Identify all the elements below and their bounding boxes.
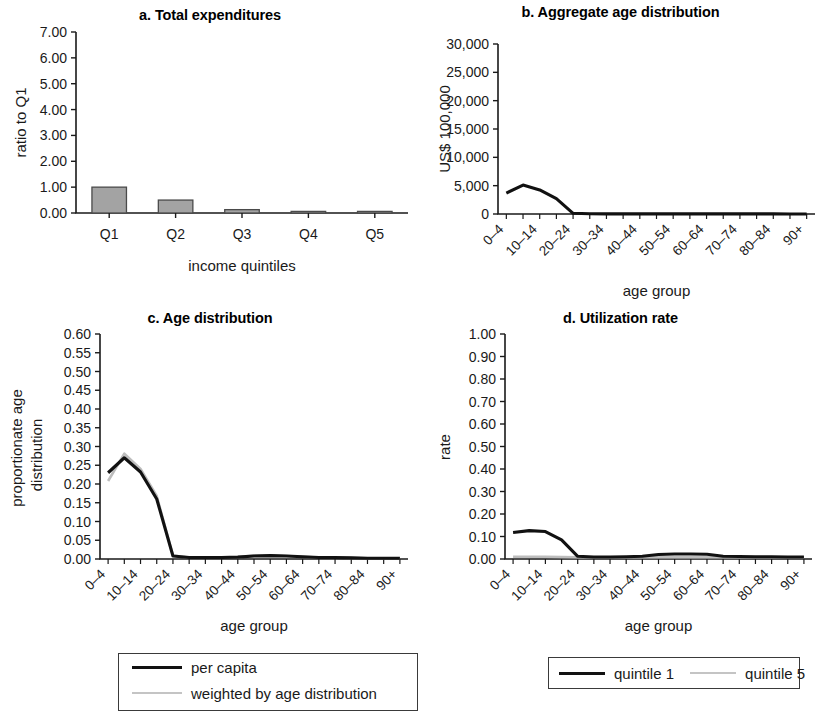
x-tick-label: 80–84 [736, 221, 773, 258]
x-tick-label: 40–44 [201, 566, 238, 603]
panel-a-total-expenditures: a. Total expenditures 0.001.002.003.004.… [0, 0, 420, 292]
series-line-aggregate [506, 185, 806, 214]
x-tick-label: 40–44 [603, 221, 640, 258]
y-tick-label: 0 [481, 206, 489, 222]
c-x-axis-title: age group [220, 617, 288, 634]
y-tick-label: 2.00 [40, 153, 67, 169]
x-tick-label: 70–74 [298, 566, 335, 603]
y-tick-label: 0.55 [64, 345, 91, 361]
y-tick-label: 4.00 [40, 102, 67, 118]
x-tick-label: 80–84 [735, 566, 772, 603]
legend-line-swatch-light-icon [132, 692, 182, 694]
panel-b-aggregate-age-distribution: b. Aggregate age distribution 05,00010,0… [420, 0, 821, 300]
d-axes [505, 334, 812, 559]
series-line-per-capita [108, 458, 400, 559]
legend-line-swatch-light-icon [690, 672, 736, 674]
y-tick-label: 0.15 [64, 495, 91, 511]
y-tick-label: 6.00 [40, 50, 67, 66]
x-tick-label: 0–4 [487, 566, 514, 593]
panel-d-y-axis-title: rate [436, 434, 453, 460]
x-tick-label: 50–54 [638, 566, 675, 603]
y-tick-label: 7.00 [40, 24, 67, 40]
y-tick-label: 5,000 [454, 178, 489, 194]
x-tick-label: Q5 [365, 226, 384, 242]
x-tick-label: 40–44 [605, 566, 642, 603]
panel-d-utilization-rate: d. Utilization rate 0.000.100.200.300.40… [420, 300, 821, 714]
x-tick-label: Q2 [166, 226, 185, 242]
x-tick-label: 20–24 [541, 566, 578, 603]
panel-d-title: d. Utilization rate [420, 310, 821, 326]
panel-d-plot: 0.000.100.200.300.400.500.600.700.800.90… [420, 300, 821, 660]
y-tick-label: 1.00 [40, 179, 67, 195]
y-tick-label: 0.35 [64, 420, 91, 436]
x-tick-label: 60–64 [670, 221, 707, 258]
y-tick-label: 0.30 [64, 439, 91, 455]
y-tick-label: 5.00 [40, 76, 67, 92]
panel-b-plot: 05,00010,00015,00020,00025,00030,0000–41… [420, 0, 821, 300]
panel-a-x-axis-title: income quintiles [188, 257, 296, 274]
y-tick-label: 0.30 [469, 484, 496, 500]
x-tick-label: 60–64 [670, 566, 707, 603]
x-tick-label: 70–74 [703, 221, 740, 258]
x-tick-label: 30–34 [168, 566, 205, 603]
y-tick-label: 0.20 [469, 506, 496, 522]
y-tick-label: 0.50 [469, 439, 496, 455]
y-tick-label: 0.05 [64, 532, 91, 548]
y-tick-label: 0.50 [64, 364, 91, 380]
panel-a-y-axis-title: ratio to Q1 [12, 87, 29, 157]
b-axes [498, 44, 815, 214]
y-tick-label: 0.40 [469, 461, 496, 477]
series-line-weighted-by-age-distribution [108, 454, 400, 559]
panel-c-legend: per capita weighted by age distribution [118, 653, 418, 711]
series-line-quintile-1 [513, 531, 804, 557]
panel-c-y-axis-title-line1: proportionate age [8, 389, 25, 507]
y-tick-label: 1.00 [469, 326, 496, 342]
y-tick-label: 0.60 [469, 416, 496, 432]
x-tick-label: 70–74 [702, 566, 739, 603]
x-tick-label: 20–24 [536, 221, 573, 258]
x-tick-label: Q3 [233, 226, 252, 242]
y-tick-label: 0.80 [469, 371, 496, 387]
panel-d-legend: quintile 1 quintile 5 [548, 657, 800, 689]
x-tick-label: 0–4 [82, 566, 109, 593]
b-x-axis-title: age group [623, 282, 691, 299]
x-tick-label: 10–14 [503, 221, 540, 258]
x-tick-label: 0–4 [480, 221, 507, 248]
y-tick-label: 0.00 [64, 551, 91, 567]
bar-Q3 [225, 210, 260, 213]
panel-a-title: a. Total expenditures [0, 7, 420, 23]
x-tick-label: 90+ [780, 221, 807, 248]
d-x-axis-title: age group [625, 617, 693, 634]
y-tick-label: 0.20 [64, 476, 91, 492]
panel-c-plot: 0.000.050.100.150.200.250.300.350.400.45… [0, 300, 420, 660]
y-tick-label: 25,000 [446, 64, 489, 80]
panel-c-age-distribution: c. Age distribution 0.000.050.100.150.20… [0, 300, 420, 714]
panel-c-title: c. Age distribution [0, 310, 420, 326]
legend-line-swatch-dark-icon [559, 672, 605, 675]
y-tick-label: 30,000 [446, 36, 489, 52]
panel-a-plot: 0.001.002.003.004.005.006.007.00Q1Q2Q3Q4… [0, 0, 420, 292]
legend-label: quintile 1 [614, 665, 674, 682]
x-tick-label: 30–34 [569, 221, 606, 258]
legend-label: quintile 5 [745, 665, 805, 682]
legend-line-swatch-dark-icon [132, 666, 182, 669]
y-tick-label: 0.00 [469, 551, 496, 567]
panel-b-title: b. Aggregate age distribution [420, 4, 821, 20]
x-tick-label: 20–24 [136, 566, 173, 603]
figure-four-panel-chart: a. Total expenditures 0.001.002.003.004.… [0, 0, 821, 714]
y-tick-label: 0.10 [64, 514, 91, 530]
panel-b-y-axis-title: US$ 100,000 [436, 85, 453, 173]
x-tick-label: Q4 [299, 226, 318, 242]
x-tick-label: 90+ [373, 566, 400, 593]
bar-Q5 [358, 211, 393, 213]
panel-c-y-axis-title-line2: distribution [28, 419, 45, 492]
bar-Q2 [158, 200, 193, 213]
bar-Q1 [92, 187, 127, 213]
x-tick-label: 90+ [777, 566, 804, 593]
x-tick-label: 30–34 [573, 566, 610, 603]
x-tick-label: 50–54 [233, 566, 270, 603]
y-tick-label: 0.10 [469, 529, 496, 545]
x-tick-label: 50–54 [636, 221, 673, 258]
y-tick-label: 0.40 [64, 401, 91, 417]
legend-label: per capita [191, 659, 257, 676]
